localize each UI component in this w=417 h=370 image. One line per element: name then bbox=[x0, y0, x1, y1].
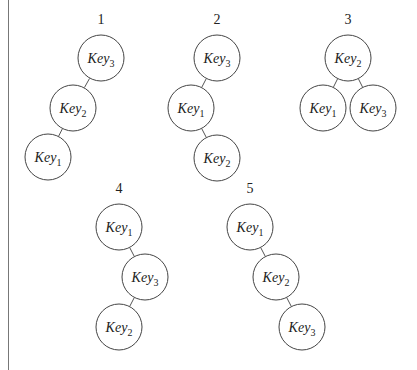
key-text: Key bbox=[204, 50, 226, 65]
key-text: Key bbox=[360, 100, 382, 115]
key-text: Key bbox=[289, 319, 311, 334]
key-text: Key bbox=[88, 50, 110, 65]
node-key-label: Key1 bbox=[310, 100, 337, 116]
tree-edge bbox=[59, 129, 63, 136]
tree-edge bbox=[261, 248, 265, 256]
node-key-label: Key3 bbox=[132, 269, 159, 285]
key-subscript: 2 bbox=[356, 57, 361, 68]
key-subscript: 2 bbox=[127, 326, 132, 337]
key-subscript: 3 bbox=[225, 57, 230, 68]
node-key-label: Key1 bbox=[106, 219, 133, 235]
tree-label-3: 3 bbox=[345, 12, 352, 28]
key-subscript: 1 bbox=[199, 107, 204, 118]
key-subscript: 1 bbox=[56, 156, 61, 167]
key-text: Key bbox=[335, 50, 357, 65]
tree-node-key1: Key1 bbox=[25, 134, 72, 181]
node-key-label: Key1 bbox=[178, 100, 205, 116]
tree-node-key2: Key2 bbox=[253, 254, 300, 301]
key-text: Key bbox=[178, 100, 200, 115]
node-key-label: Key3 bbox=[88, 50, 115, 66]
key-text: Key bbox=[106, 219, 128, 234]
tree-node-key2: Key2 bbox=[96, 304, 143, 351]
tree-node-key1: Key1 bbox=[227, 204, 274, 251]
node-key-label: Key3 bbox=[204, 50, 231, 66]
key-text: Key bbox=[60, 100, 82, 115]
tree-node-key3: Key3 bbox=[194, 35, 241, 82]
key-subscript: 3 bbox=[381, 107, 386, 118]
tree-node-key2: Key2 bbox=[194, 135, 241, 182]
tree-label-4: 4 bbox=[116, 181, 123, 197]
key-text: Key bbox=[35, 149, 57, 164]
key-subscript: 3 bbox=[153, 276, 158, 287]
key-text: Key bbox=[204, 150, 226, 165]
key-text: Key bbox=[237, 219, 259, 234]
tree-label-5: 5 bbox=[247, 181, 254, 197]
node-key-label: Key2 bbox=[263, 269, 290, 285]
key-subscript: 2 bbox=[81, 107, 86, 118]
tree-node-key2: Key2 bbox=[50, 85, 97, 132]
tree-node-key1: Key1 bbox=[168, 85, 215, 132]
tree-edge bbox=[84, 79, 89, 88]
node-key-label: Key1 bbox=[237, 219, 264, 235]
node-key-label: Key2 bbox=[204, 150, 231, 166]
tree-edge bbox=[130, 298, 134, 306]
tree-node-key1: Key1 bbox=[300, 85, 347, 132]
key-subscript: 3 bbox=[310, 326, 315, 337]
key-subscript: 2 bbox=[284, 276, 289, 287]
tree-node-key3: Key3 bbox=[279, 304, 326, 351]
key-subscript: 1 bbox=[331, 107, 336, 118]
key-subscript: 2 bbox=[225, 157, 230, 168]
tree-label-2: 2 bbox=[214, 12, 221, 28]
key-text: Key bbox=[132, 269, 154, 284]
node-key-label: Key2 bbox=[60, 100, 87, 116]
tree-node-key3: Key3 bbox=[78, 35, 125, 82]
tree-edge bbox=[202, 79, 206, 87]
tree-node-key3: Key3 bbox=[350, 85, 397, 132]
tree-edge bbox=[287, 298, 291, 306]
tree-edge bbox=[202, 129, 206, 137]
tree-node-key1: Key1 bbox=[96, 204, 143, 251]
node-key-label: Key3 bbox=[360, 100, 387, 116]
key-subscript: 3 bbox=[109, 57, 114, 68]
tree-edge bbox=[334, 79, 338, 87]
tree-node-key3: Key3 bbox=[122, 254, 169, 301]
bst-figure: 1Key3Key2Key12Key3Key1Key23Key2Key1Key34… bbox=[0, 0, 417, 370]
node-key-label: Key2 bbox=[106, 319, 133, 335]
key-text: Key bbox=[310, 100, 332, 115]
key-subscript: 1 bbox=[127, 226, 132, 237]
node-key-label: Key2 bbox=[335, 50, 362, 66]
tree-edge bbox=[130, 248, 134, 256]
node-key-label: Key1 bbox=[35, 149, 62, 165]
node-key-label: Key3 bbox=[289, 319, 316, 335]
tree-node-key2: Key2 bbox=[325, 35, 372, 82]
tree-edge bbox=[359, 79, 363, 87]
key-text: Key bbox=[263, 269, 285, 284]
key-subscript: 1 bbox=[258, 226, 263, 237]
tree-label-1: 1 bbox=[98, 12, 105, 28]
key-text: Key bbox=[106, 319, 128, 334]
